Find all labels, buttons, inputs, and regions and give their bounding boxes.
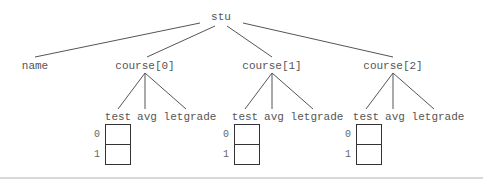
node-course-0: course[0] bbox=[115, 60, 174, 72]
array-index-0: 0 bbox=[94, 129, 100, 141]
edge-course2-letgrade bbox=[393, 73, 434, 109]
node-course-2: course[2] bbox=[363, 60, 422, 72]
edge-course0-letgrade bbox=[145, 73, 186, 109]
node-name: name bbox=[22, 60, 48, 72]
edge-course2-test bbox=[366, 73, 393, 109]
field-avg: avg bbox=[264, 111, 284, 123]
edge-stu-name bbox=[35, 23, 200, 57]
array-index-0: 0 bbox=[345, 129, 351, 141]
struct-tree-diagram: stu name course[0] course[1] course[2] t… bbox=[0, 0, 483, 179]
array-index-1: 1 bbox=[223, 149, 229, 161]
field-test: test bbox=[353, 111, 379, 123]
test-array-cell-0 bbox=[234, 124, 260, 145]
edge-stu-course0 bbox=[147, 26, 215, 57]
edge-stu-course2 bbox=[243, 23, 393, 57]
edge-course1-letgrade bbox=[272, 73, 313, 109]
field-test: test bbox=[105, 111, 131, 123]
array-index-0: 0 bbox=[223, 129, 229, 141]
edge-stu-course1 bbox=[227, 26, 272, 57]
test-array-cell-1 bbox=[105, 144, 131, 165]
test-array-cell-1 bbox=[234, 144, 260, 165]
bottom-divider bbox=[0, 177, 483, 179]
array-index-1: 1 bbox=[345, 149, 351, 161]
field-letgrade: letgrade bbox=[164, 111, 217, 123]
field-test: test bbox=[232, 111, 258, 123]
field-avg: avg bbox=[137, 111, 157, 123]
field-letgrade: letgrade bbox=[412, 111, 465, 123]
node-stu: stu bbox=[211, 11, 231, 23]
node-course-1: course[1] bbox=[242, 60, 301, 72]
test-array-cell-0 bbox=[105, 124, 131, 145]
field-letgrade: letgrade bbox=[291, 111, 344, 123]
test-array-cell-0 bbox=[356, 124, 382, 145]
edge-course1-test bbox=[245, 73, 272, 109]
field-avg: avg bbox=[385, 111, 405, 123]
edge-course0-test bbox=[118, 73, 145, 109]
test-array-cell-1 bbox=[356, 144, 382, 165]
array-index-1: 1 bbox=[94, 149, 100, 161]
